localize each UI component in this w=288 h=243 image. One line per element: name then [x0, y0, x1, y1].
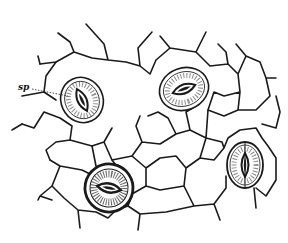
epidermis-illustration — [0, 0, 288, 243]
label-sp: sp — [18, 82, 29, 92]
stoma-1 — [53, 70, 111, 129]
stoma-4 — [227, 142, 263, 188]
stoma-3 — [81, 160, 137, 216]
stoma-2 — [153, 61, 214, 118]
cell-walls — [12, 24, 280, 230]
